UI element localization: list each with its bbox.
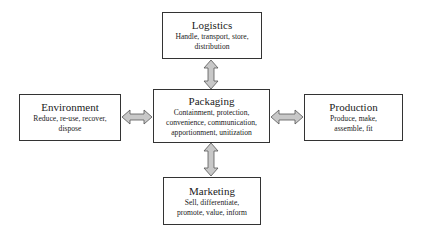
logistics-desc-line-1: Handle, transport, store, (172, 32, 251, 42)
marketing-box: Marketing Sell, differentiate, promote, … (163, 177, 261, 225)
packaging-title: Packaging (189, 95, 235, 108)
packaging-box: Packaging Containment, protection, conve… (153, 89, 270, 143)
marketing-desc-line-1: Sell, differentiate, (182, 198, 242, 208)
packaging-desc-line-2: convenience, communication, (163, 118, 260, 128)
marketing-desc-line-2: promote, value, inform (174, 208, 250, 218)
environment-box: Environment Reduce, re-use, recover, dis… (19, 94, 121, 141)
environment-title: Environment (41, 101, 98, 114)
arrow-packaging-production-icon (271, 110, 303, 124)
packaging-desc-line-1: Containment, protection, (171, 108, 253, 118)
environment-desc-line-2: dispose (56, 124, 85, 134)
environment-desc-line-1: Reduce, re-use, recover, (30, 114, 109, 124)
arrow-environment-packaging-icon (122, 110, 152, 124)
production-desc-line-2: assemble, fit (331, 124, 375, 134)
arrow-packaging-marketing-icon (204, 143, 218, 176)
packaging-desc-line-3: apportionment, unitization (168, 128, 255, 138)
logistics-box: Logistics Handle, transport, store, dist… (162, 12, 262, 59)
logistics-title: Logistics (192, 19, 232, 32)
production-title: Production (329, 101, 377, 114)
production-desc-line-1: Produce, make, (327, 114, 380, 124)
logistics-desc-line-2: distribution (191, 42, 232, 52)
marketing-title: Marketing (189, 185, 235, 198)
arrow-logistics-packaging-icon (204, 60, 218, 89)
production-box: Production Produce, make, assemble, fit (304, 94, 403, 141)
